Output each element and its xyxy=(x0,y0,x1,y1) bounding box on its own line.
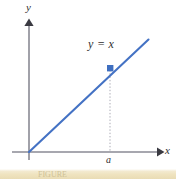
figure-container: y x a y = x FIGURE xyxy=(0,0,176,179)
y-axis-label: y xyxy=(26,2,31,13)
x-axis-arrow-icon xyxy=(157,147,165,156)
point-marker xyxy=(107,65,113,71)
coordinate-plot xyxy=(0,0,176,179)
caption-band: FIGURE xyxy=(0,169,176,179)
y-axis-arrow-icon xyxy=(24,19,33,27)
x-tick-label-a: a xyxy=(106,155,111,165)
x-axis-label: x xyxy=(165,145,170,156)
line-y-equals-x xyxy=(29,40,149,153)
figure-caption: FIGURE xyxy=(38,170,67,179)
equation-label: y = x xyxy=(88,38,114,50)
